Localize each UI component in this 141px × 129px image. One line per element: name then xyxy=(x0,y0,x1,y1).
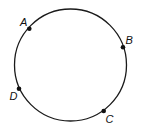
point-label-c: C xyxy=(106,113,114,125)
point-label-b: B xyxy=(126,34,133,46)
point-a xyxy=(27,26,32,31)
points-group: ABCD xyxy=(10,16,133,125)
circle xyxy=(15,9,127,121)
point-label-d: D xyxy=(10,90,18,102)
point-label-a: A xyxy=(19,16,27,28)
circle-diagram: ABCD xyxy=(0,0,141,129)
